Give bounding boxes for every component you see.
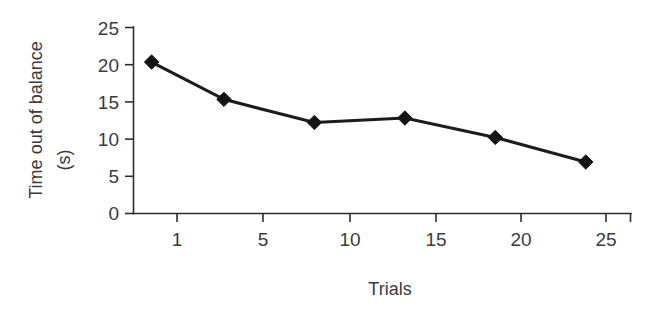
x-tick-label-5: 5 [258, 229, 269, 250]
x-axis-ticks [177, 214, 631, 223]
x-axis-tick-labels: 1 5 10 15 20 25 [172, 229, 617, 250]
y-axis-title-line2: (s) [54, 150, 74, 171]
y-tick-label-0: 0 [108, 203, 119, 224]
data-point-marker [579, 155, 593, 169]
y-axis-tick-labels: 25 20 15 10 5 0 [98, 18, 119, 224]
line-chart: 25 20 15 10 5 0 1 5 10 15 20 25 Trials [0, 0, 668, 317]
data-point-marker [488, 130, 502, 144]
chart-canvas: 25 20 15 10 5 0 1 5 10 15 20 25 Trials [0, 0, 668, 317]
data-point-marker [398, 111, 412, 125]
y-tick-label-20: 20 [98, 55, 119, 76]
x-tick-label-1: 1 [172, 229, 183, 250]
x-tick-label-25: 25 [595, 229, 616, 250]
y-axis-ticks [125, 28, 134, 214]
y-axis-title-line1: Time out of balance [26, 41, 46, 198]
data-point-marker [217, 92, 231, 106]
x-tick-label-10: 10 [339, 229, 360, 250]
data-point-marker [307, 115, 321, 129]
series-markers [144, 55, 593, 169]
x-tick-label-15: 15 [425, 229, 446, 250]
x-axis-title: Trials [368, 279, 411, 299]
y-tick-label-10: 10 [98, 129, 119, 150]
x-tick-label-20: 20 [510, 229, 531, 250]
y-tick-label-5: 5 [108, 166, 119, 187]
series-line-time-out-of-balance [152, 62, 586, 162]
y-tick-label-15: 15 [98, 92, 119, 113]
y-tick-label-25: 25 [98, 18, 119, 39]
data-point-marker [144, 55, 158, 69]
